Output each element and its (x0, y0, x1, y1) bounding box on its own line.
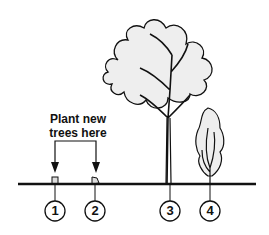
marker-2: 2 (85, 201, 105, 221)
marker-3: 3 (160, 201, 180, 221)
large-tree-icon (103, 20, 212, 183)
plant-label-line1: Plant new (38, 112, 118, 126)
marker-1: 1 (45, 201, 65, 221)
small-tree-icon (196, 108, 224, 183)
plant-label-line2: trees here (38, 126, 118, 140)
marker-4: 4 (200, 201, 220, 221)
